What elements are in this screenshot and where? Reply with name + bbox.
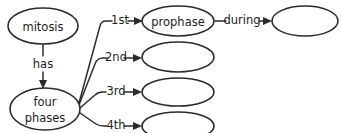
- diagram-canvas: has 1st 2nd 3rd 4th: [0, 0, 342, 133]
- node-blank-fourth-shape[interactable]: [142, 112, 214, 133]
- edge-during-arrowhead: [263, 17, 272, 25]
- edge-4th-arrowhead: [133, 122, 142, 130]
- edge-3rd: 3rd: [80, 84, 142, 109]
- node-blank-third[interactable]: [142, 78, 214, 106]
- edge-label-has: has: [33, 57, 53, 71]
- node-blank-top-right-shape[interactable]: [272, 6, 338, 36]
- edge-2nd-line: [79, 58, 107, 105]
- node-blank-second[interactable]: [142, 42, 214, 72]
- edge-label-2nd: 2nd: [105, 50, 127, 64]
- node-four-phases-label-line1: four: [33, 95, 56, 109]
- node-four-phases-label-line2: phases: [25, 111, 66, 125]
- edge-label-during: during: [223, 13, 260, 27]
- edge-label-4th: 4th: [106, 118, 125, 132]
- node-blank-second-shape[interactable]: [142, 42, 214, 72]
- node-prophase-label: prophase: [151, 15, 205, 29]
- node-blank-fourth[interactable]: [142, 112, 214, 133]
- node-four-phases[interactable]: four phases: [10, 88, 80, 130]
- edge-4th: 4th: [80, 113, 142, 132]
- node-mitosis[interactable]: mitosis: [8, 8, 78, 44]
- concept-map-diagram: has 1st 2nd 3rd 4th: [0, 0, 342, 133]
- node-prophase[interactable]: prophase: [142, 6, 214, 36]
- edge-label-1st: 1st: [111, 13, 129, 27]
- edge-4th-line: [80, 113, 107, 126]
- node-mitosis-label: mitosis: [22, 20, 63, 34]
- node-blank-top-right[interactable]: [272, 6, 338, 36]
- edge-during: during: [215, 13, 272, 27]
- edge-3rd-arrowhead: [133, 88, 142, 96]
- node-blank-third-shape[interactable]: [142, 78, 214, 106]
- edge-2nd-arrowhead: [133, 54, 142, 62]
- edge-has: has: [33, 44, 53, 89]
- edge-label-3rd: 3rd: [106, 84, 125, 98]
